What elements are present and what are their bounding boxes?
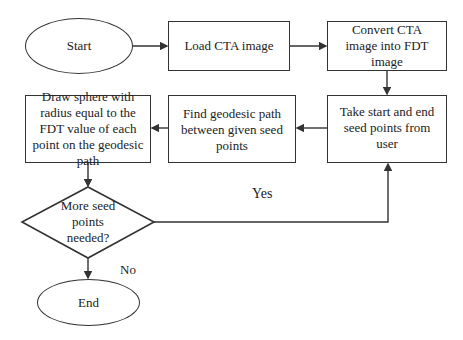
- find-path-node: Find geodesic path between given seed po…: [168, 95, 296, 163]
- no-label: No: [120, 262, 136, 278]
- end-node: End: [37, 279, 140, 326]
- start-node: Start: [25, 18, 133, 74]
- end-label: End: [78, 295, 99, 311]
- convert-node: Convert CTA image into FDT image: [327, 21, 447, 71]
- load-cta-label: Load CTA image: [184, 38, 273, 54]
- convert-label: Convert CTA image into FDT image: [340, 22, 434, 70]
- take-seed-label: Take start and end seed points from user: [332, 104, 442, 152]
- start-label: Start: [67, 38, 92, 54]
- decision-label: More seed points needed?: [58, 198, 118, 246]
- draw-sphere-node: Draw sphere with radius equal to the FDT…: [25, 95, 151, 163]
- find-path-label: Find geodesic path between given seed po…: [173, 106, 291, 154]
- draw-sphere-label: Draw sphere with radius equal to the FDT…: [30, 89, 146, 169]
- yes-label: Yes: [252, 186, 272, 202]
- load-cta-node: Load CTA image: [168, 21, 290, 71]
- take-seed-node: Take start and end seed points from user: [327, 95, 447, 163]
